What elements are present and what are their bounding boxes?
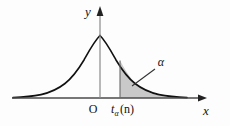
critical-value-subscript: α [115, 109, 120, 118]
alpha-label: α [158, 55, 165, 69]
critical-value-argument: (n) [120, 102, 134, 116]
y-axis-label: y [83, 4, 91, 19]
critical-value-label: t α (n) [111, 102, 134, 118]
x-axis-arrow-icon [198, 94, 207, 101]
origin-label: O [89, 102, 98, 116]
y-axis-arrow-icon [97, 6, 104, 16]
statistics-figure: y x O α t α (n) [0, 0, 230, 126]
alpha-leader-line [132, 69, 155, 86]
x-axis-label: x [202, 103, 209, 118]
